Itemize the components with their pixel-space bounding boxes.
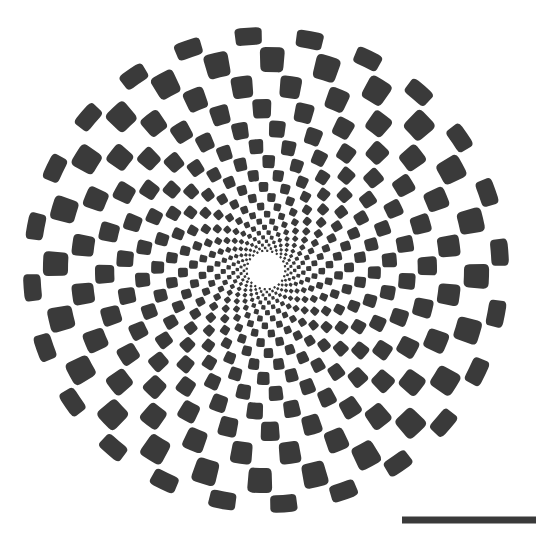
checker-cell [226,265,231,269]
checker-cell [261,244,264,247]
checker-cell [207,266,214,273]
figure-root [0,0,536,546]
checker-cell [287,268,290,271]
checker-cell [300,260,305,265]
checker-cell [267,301,271,305]
checker-cell [215,274,221,280]
checker-cell [268,330,276,338]
checker-cell [246,268,248,270]
checker-cell [464,264,489,289]
checker-cell [261,293,264,296]
checker-cell [239,265,242,268]
checker-cell [72,234,96,257]
checker-cell [231,76,254,100]
checker-cell [236,384,252,400]
checker-cell [279,76,302,100]
checker-cell [221,269,226,274]
checker-cell [240,272,243,275]
checker-cell [326,261,334,269]
checker-cell [265,310,270,315]
checker-cell [264,348,274,358]
checker-cell [283,400,301,418]
checker-cell [214,261,220,267]
checker-cell [234,27,261,46]
checker-cell [231,271,235,275]
checker-cell [306,266,311,271]
checker-cell [273,170,285,182]
checker-cell [289,265,292,268]
checker-cell [269,120,286,138]
checker-cell [72,283,96,306]
checker-cell [249,139,264,154]
checker-cell [243,270,246,273]
checker-cell [230,441,253,465]
checker-cell [284,265,287,267]
checker-cell [344,263,354,273]
checker-cell [264,297,267,300]
checker-cell [189,260,198,269]
checker-cell [43,251,68,276]
checker-cell [247,170,259,182]
checker-cell [334,271,343,280]
checker-cell [266,291,269,294]
checker-cell [199,255,207,263]
checker-cell [262,155,275,168]
checker-cell [265,240,268,243]
checker-cell [166,252,178,264]
checker-cell [257,203,265,211]
checker-cell [248,358,260,370]
checker-cell [246,273,249,275]
checker-cell [236,268,239,271]
checker-cell [437,235,461,258]
checker-cell [261,422,280,442]
checker-cell [354,251,366,263]
checker-cell [318,268,325,275]
checker-cell [289,272,292,275]
checker-cell [264,247,267,250]
checker-cell [273,203,281,211]
checker-cell [136,240,152,256]
checker-cell [382,253,397,268]
checker-cell [190,279,200,288]
checker-cell [311,273,317,279]
checker-cell [269,288,271,291]
checker-cell [257,372,270,385]
checker-cell [261,235,265,239]
checker-cell [271,304,276,309]
checker-cell [270,494,297,513]
checker-cell [269,218,275,224]
checker-cell [246,402,263,420]
checker-cell [259,182,269,192]
checker-cell [116,250,134,267]
checker-cell [301,270,306,274]
checker-cell [368,266,381,279]
checker-cell [248,194,257,204]
center-hub-circle [248,252,284,288]
checker-cell [166,277,178,289]
checker-cell [270,236,274,240]
checker-cell [256,231,261,236]
checker-cell [135,273,150,288]
checker-cell [257,315,263,321]
checker-cell [251,329,259,337]
checker-cell [260,47,285,72]
checker-cell [293,269,296,272]
checker-cell [23,274,42,301]
checker-cell [264,211,271,218]
checker-cell [296,274,300,278]
checker-cell [380,285,396,301]
checker-cell [284,270,286,272]
radial-checkerboard-pattern [0,0,536,546]
checker-cell [178,268,188,278]
checker-cell [490,238,509,265]
checker-cell [258,300,262,304]
checker-cell [297,265,301,269]
checker-cell [151,261,164,274]
checker-cell [264,288,266,290]
checker-cell [269,386,284,401]
checker-cell [273,358,285,370]
checker-cell [437,283,461,306]
checker-cell [279,441,302,465]
checker-cell [311,260,317,266]
checker-cell [232,262,236,266]
